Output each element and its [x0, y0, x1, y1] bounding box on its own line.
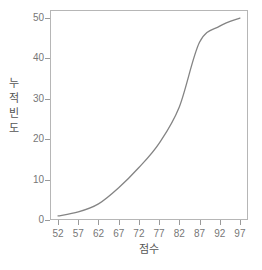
x-axis-tick-mark [240, 220, 241, 225]
y-axis-tick-label: 50 [22, 13, 44, 23]
y-axis-tick-label: 40 [22, 53, 44, 63]
x-axis-tick-mark [200, 220, 201, 225]
y-axis-tick-mark [45, 220, 50, 221]
x-axis-tick-mark [119, 220, 120, 225]
x-axis-tick-label: 97 [225, 228, 255, 239]
x-axis-tick-mark [58, 220, 59, 225]
y-axis-tick-label: 20 [22, 134, 44, 144]
x-axis-tick-mark [159, 220, 160, 225]
x-axis-tick-mark [98, 220, 99, 225]
y-axis-tick-label: 30 [22, 94, 44, 104]
plot-frame [50, 10, 248, 220]
y-axis-tick-label: 0 [22, 215, 44, 225]
x-axis-label: 점수 [50, 243, 248, 256]
y-axis-tick-label: 10 [22, 175, 44, 185]
y-axis-tick-labels: 01020304050 [18, 0, 44, 270]
x-axis-tick-mark [220, 220, 221, 225]
x-axis-tick-mark [139, 220, 140, 225]
x-axis-tick-mark [78, 220, 79, 225]
x-axis-tick-mark [179, 220, 180, 225]
cumulative-frequency-chart: 누 적 빈 도 01020304050 52576267727782879297… [0, 0, 262, 270]
